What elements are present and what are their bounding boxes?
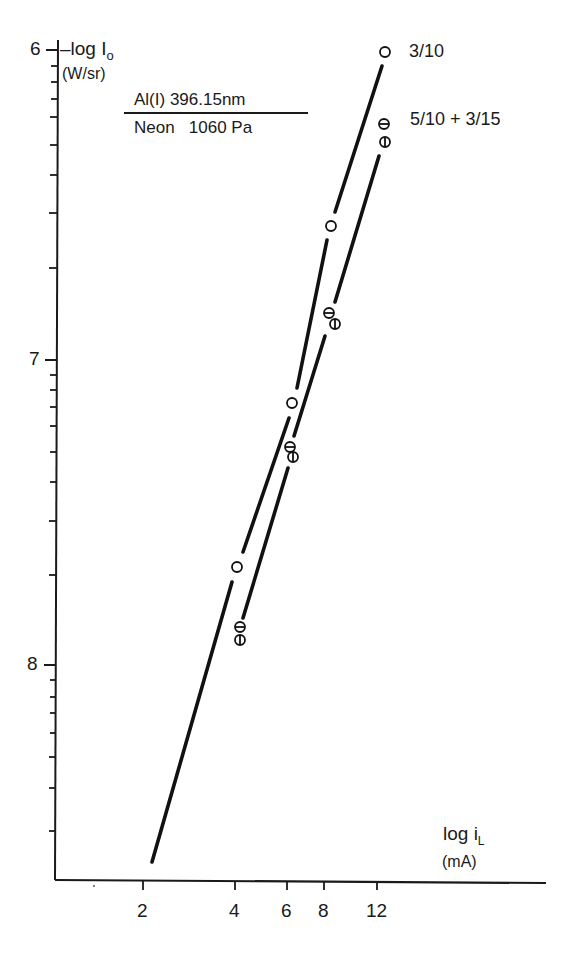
cropped-caption bbox=[0, 944, 420, 954]
x-tick-label-12: 12 bbox=[366, 900, 387, 922]
point-5-10 bbox=[379, 119, 389, 129]
x-axis-title-main: log i bbox=[443, 823, 478, 844]
point-3-15 bbox=[380, 137, 390, 147]
fit-line-3-10 bbox=[152, 66, 382, 862]
point-5-10 bbox=[285, 442, 295, 452]
y-tick-label-6: 6 bbox=[30, 38, 41, 60]
x-axis-title: log iL bbox=[443, 823, 485, 852]
point-3-10 bbox=[287, 398, 297, 408]
x-tick-label-4: 4 bbox=[229, 900, 240, 922]
chart-canvas bbox=[0, 0, 573, 954]
x-tick-label-8: 8 bbox=[318, 900, 329, 922]
point-3-10 bbox=[326, 221, 336, 231]
point-3-10 bbox=[232, 562, 242, 572]
x-axis-stray-dot bbox=[93, 885, 95, 887]
point-3-15 bbox=[288, 452, 298, 462]
y-axis-title: –log Io bbox=[60, 38, 114, 67]
y-tick-label-7: 7 bbox=[29, 348, 40, 370]
y-axis-title-sub: o bbox=[106, 48, 113, 63]
point-5-10 bbox=[235, 622, 245, 632]
legend-label-5-10-3-15: 5/10 + 3/15 bbox=[410, 109, 501, 130]
fit-line-5-10-3-15 bbox=[243, 156, 379, 618]
y-tick-label-8: 8 bbox=[27, 653, 38, 675]
x-axis-unit: (mA) bbox=[442, 853, 477, 871]
y-axis bbox=[55, 40, 58, 880]
annotation-line-2: Neon 1060 Pa bbox=[134, 118, 252, 138]
point-3-15 bbox=[330, 319, 340, 329]
point-5-10 bbox=[324, 308, 334, 318]
point-3-15 bbox=[235, 635, 245, 645]
x-axis bbox=[55, 880, 546, 883]
x-tick-label-2: 2 bbox=[137, 900, 148, 922]
legend-label-3-10: 3/10 bbox=[409, 41, 444, 62]
y-axis-unit: (W/sr) bbox=[62, 65, 106, 83]
series-3-10-markers bbox=[232, 47, 390, 572]
x-tick-label-6: 6 bbox=[281, 900, 292, 922]
y-axis-title-main: –log I bbox=[60, 38, 106, 59]
annotation-line-1: Al(I) 396.15nm bbox=[134, 90, 246, 110]
point-3-10 bbox=[380, 47, 390, 57]
x-axis-title-sub: L bbox=[478, 834, 485, 848]
